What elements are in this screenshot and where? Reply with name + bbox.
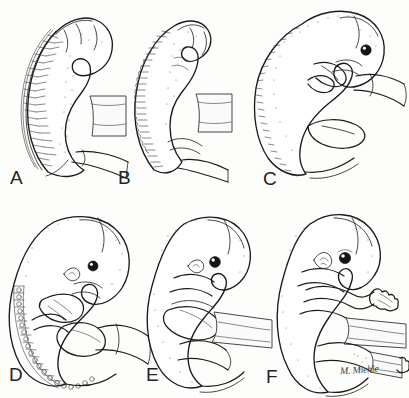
panel-c: C	[244, 2, 409, 194]
panel-f: F M. Miehle	[262, 206, 409, 398]
panel-f-illustration	[262, 206, 409, 398]
panel-label-e: E	[146, 364, 159, 386]
panel-label-a: A	[10, 167, 23, 189]
panel-label-d: D	[9, 364, 23, 386]
panel-d: D	[2, 208, 152, 396]
panel-d-illustration	[2, 208, 152, 396]
panel-c-illustration	[244, 2, 409, 194]
panel-e-illustration	[140, 208, 275, 396]
embryo-development-figure: A	[0, 0, 409, 398]
eye	[339, 252, 350, 263]
panel-label-b: B	[118, 167, 131, 189]
panel-label-c: C	[263, 168, 277, 190]
panel-e: E	[140, 208, 275, 396]
eye	[88, 261, 98, 271]
panel-b-illustration	[112, 4, 242, 194]
panel-label-f: F	[266, 366, 278, 388]
eye	[210, 257, 221, 268]
panel-b: B	[112, 4, 242, 194]
eye	[361, 45, 371, 55]
